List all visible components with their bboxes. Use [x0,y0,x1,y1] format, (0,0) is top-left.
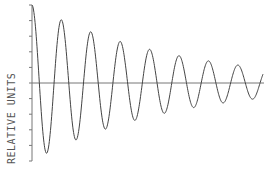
series-line-damped-oscillation [32,5,263,153]
y-axis-label: RELATIVE UNITS [6,73,17,164]
damped-oscillation-chart: RELATIVE UNITS [0,0,265,169]
